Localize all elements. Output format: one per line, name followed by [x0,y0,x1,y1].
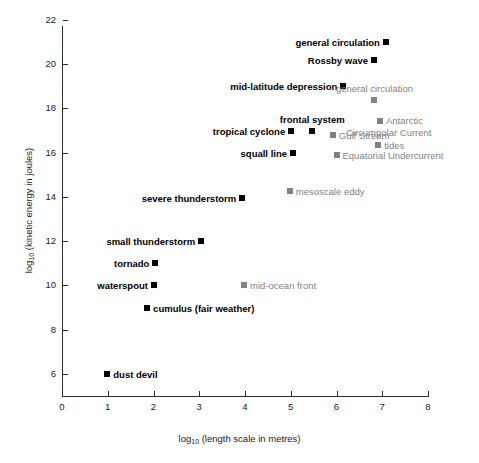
x-tick-label-2: 2 [144,401,164,412]
y-axis-title-suffix: (kinetic energy in joules) [23,148,34,253]
x-tick-5 [291,391,292,396]
point-label-general-circulation: general circulation [336,83,413,94]
x-tick-label-4: 4 [235,401,255,412]
y-tick-label-14: 14 [34,191,56,202]
x-tick-label-0: 0 [52,401,72,412]
x-tick-label-1: 1 [98,401,118,412]
y-tick-6 [63,374,68,375]
y-tick-18 [63,108,68,109]
point-label-tides: tides [384,139,404,150]
data-point-general-circulation [383,39,389,45]
point-label-mid-ocean-front: mid-ocean front [250,280,316,291]
x-axis-title-subscript: 10 [191,438,199,445]
y-tick-14 [63,197,68,198]
data-point-gulf-stream [330,132,336,138]
y-tick-12 [63,241,68,242]
data-point-general-circulation [371,97,377,103]
data-point-waterspout [151,282,157,288]
data-point-dust-devil [104,371,110,377]
x-tick-label-6: 6 [327,401,347,412]
x-tick-1 [108,391,109,396]
x-tick-2 [154,391,155,396]
x-tick-4 [245,391,246,396]
y-tick-label-8: 8 [34,324,56,335]
x-tick-0 [62,391,63,396]
x-tick-8 [428,391,429,396]
y-axis-title: log10 (kinetic energy in joules) [23,111,34,311]
x-tick-6 [337,391,338,396]
y-tick-8 [63,330,68,331]
data-point-tides [375,142,381,148]
y-tick-label-12: 12 [34,235,56,246]
data-point-small-thunderstorm [198,238,204,244]
y-axis-line [62,26,63,397]
x-axis-title-prefix: log [179,433,192,444]
point-label-equatorial-undercurrent: Equatorial Undercurrent [343,150,444,161]
x-tick-7 [382,391,383,396]
data-point-mesoscale-eddy [287,188,293,194]
data-point-severe-thunderstorm [239,195,245,201]
point-label-dust-devil: dust devil [113,368,157,379]
point-label-mid-latitude-depression: mid-latitude depression [230,81,337,92]
y-axis-title-subscript: 10 [27,253,34,261]
x-axis-line [62,396,429,397]
data-point-squall-line [290,150,296,156]
data-point-cumulus-fair-weather [144,305,150,311]
data-point-equatorial-undercurrent [334,152,340,158]
data-point-tropical-cyclone [288,128,294,134]
point-label-tornado: tornado [114,258,149,269]
point-label-mesoscale-eddy: mesoscale eddy [296,185,365,196]
point-label-gulf-stream: Gulf Stream [339,129,390,140]
point-label-general-circulation: general circulation [295,36,379,47]
point-label-small-thunderstorm: small thunderstorm [106,235,195,246]
y-tick-20 [63,64,68,65]
point-label-cumulus-fair-weather: cumulus (fair weather) [153,303,254,314]
point-label-tropical-cyclone: tropical cyclone [213,125,285,136]
point-label-frontal-system: frontal system [280,114,345,125]
data-point-antarctic-circumpolar-current [377,118,383,124]
point-label-antarctic-circumpolar-current-line-1: Antarctic [386,115,432,127]
x-tick-label-3: 3 [189,401,209,412]
point-label-waterspout: waterspout [97,280,148,291]
y-tick-10 [63,285,68,286]
y-tick-label-18: 18 [34,102,56,113]
y-axis-title-prefix: log [23,261,34,274]
y-tick-16 [63,153,68,154]
x-axis-title-suffix: (length scale in metres) [199,433,300,444]
data-point-mid-ocean-front [241,282,247,288]
y-tick-label-10: 10 [34,279,56,290]
point-label-antarctic-circumpolar-current: AntarcticCircumpolar Current [386,115,432,138]
x-tick-3 [199,391,200,396]
y-tick-label-16: 16 [34,147,56,158]
point-label-squall-line: squall line [241,147,287,158]
x-tick-label-7: 7 [372,401,392,412]
x-tick-label-8: 8 [418,401,438,412]
data-point-frontal-system [309,128,315,134]
y-tick-label-6: 6 [34,368,56,379]
y-tick-label-22: 22 [34,14,56,25]
point-label-severe-thunderstorm: severe thunderstorm [142,192,237,203]
data-point-rossby-wave [371,57,377,63]
x-tick-label-5: 5 [281,401,301,412]
data-point-tornado [152,260,158,266]
point-label-rossby-wave: Rossby wave [308,54,368,65]
x-axis-title: log10 (length scale in metres) [0,433,479,444]
y-tick-22 [63,20,68,21]
y-tick-label-20: 20 [34,58,56,69]
scatter-plot-figure: 6810121416182022 012345678 general circu… [0,0,479,463]
